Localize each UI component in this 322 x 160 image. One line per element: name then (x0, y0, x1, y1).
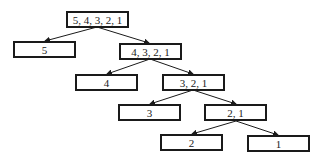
node-1: 1 (247, 135, 310, 152)
edge (236, 121, 278, 135)
node-21: 2, 1 (204, 104, 267, 121)
node-5: 5 (13, 41, 76, 58)
node-321: 3, 2, 1 (162, 74, 225, 91)
node-4: 4 (75, 74, 138, 91)
edge (193, 90, 236, 104)
edge (45, 27, 97, 41)
tree-diagram: 5, 4, 3, 2, 1 5 4, 3, 2, 1 4 3, 2, 1 3 2… (0, 0, 322, 160)
edge (97, 27, 149, 43)
node-3: 3 (118, 104, 181, 121)
node-2: 2 (160, 134, 223, 151)
edge (192, 121, 236, 134)
edge (150, 90, 193, 104)
edge (150, 59, 193, 74)
node-root: 5, 4, 3, 2, 1 (66, 11, 129, 28)
edge (107, 59, 150, 74)
node-4321: 4, 3, 2, 1 (119, 43, 182, 60)
